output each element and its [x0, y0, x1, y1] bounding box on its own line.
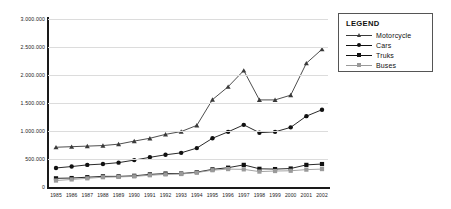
x-axis-tick-label: 1989	[113, 192, 125, 198]
chart-figure: 3.000.0002.500.0002.000.0001.500.0001.00…	[0, 0, 451, 209]
x-axis-tick-label: 1987	[82, 192, 94, 198]
x-axis-tick-label: 1999	[269, 192, 281, 198]
legend-item-cars[interactable]: Cars	[346, 40, 411, 50]
series-buses	[54, 167, 324, 183]
y-axis-tick-label: 3.000.000	[21, 16, 45, 22]
x-axis-tick-label: 1991	[144, 192, 156, 198]
legend-marker-icon	[346, 51, 372, 60]
legend-item-label: Buses	[376, 62, 396, 69]
x-axis-tick-label: 2000	[285, 192, 297, 198]
legend-item-truks[interactable]: Truks	[346, 50, 411, 60]
x-axis-tick-label: 2001	[301, 192, 313, 198]
y-axis-tick-label: 0	[42, 184, 45, 190]
legend-item-label: Truks	[376, 52, 394, 59]
x-axis-tick-label: 1990	[128, 192, 140, 198]
y-axis-labels: 3.000.0002.500.0002.000.0001.500.0001.00…	[0, 0, 45, 209]
gridline	[48, 47, 328, 48]
legend-items: MotorcycleCarsTruksBuses	[346, 30, 411, 70]
gridline	[48, 75, 328, 76]
x-axis-tick-label: 1995	[207, 192, 219, 198]
x-axis-tick-label: 1997	[238, 192, 250, 198]
x-axis-tick-label: 1993	[175, 192, 187, 198]
y-axis-tick-label: 2.000.000	[21, 72, 45, 78]
legend-marker-icon	[346, 41, 372, 50]
legend-marker-icon	[346, 61, 372, 70]
x-axis-tick-label: 2002	[316, 192, 328, 198]
series-cars	[54, 108, 324, 171]
gridline	[48, 159, 328, 160]
legend-title: LEGEND	[346, 19, 411, 28]
plot-area	[48, 19, 328, 187]
x-axis-tick-label: 1988	[97, 192, 109, 198]
x-axis-tick-label: 1994	[191, 192, 203, 198]
y-axis-tick-label: 500.000	[25, 156, 45, 162]
legend-marker-icon	[346, 31, 372, 40]
series-motorcycle	[54, 47, 325, 149]
legend-item-buses[interactable]: Buses	[346, 60, 411, 70]
legend-box: LEGEND MotorcycleCarsTruksBuses	[338, 13, 433, 72]
x-axis-tick-label: 1986	[66, 192, 78, 198]
y-axis-tick-label: 2.500.000	[21, 44, 45, 50]
legend-item-label: Motorcycle	[376, 32, 411, 39]
gridline	[48, 103, 328, 104]
gridline	[48, 131, 328, 132]
x-axis-line	[47, 187, 330, 189]
legend-item-motorcycle[interactable]: Motorcycle	[346, 30, 411, 40]
x-axis-tick-label: 1985	[50, 192, 62, 198]
x-axis-tick-label: 1992	[160, 192, 172, 198]
y-axis-tick-label: 1.500.000	[21, 100, 45, 106]
y-axis-tick-label: 1.000.000	[21, 128, 45, 134]
legend-item-label: Cars	[376, 42, 391, 49]
x-axis-labels: 1985198619871988198919901991199219931994…	[48, 192, 328, 206]
x-axis-tick-label: 1998	[254, 192, 266, 198]
x-axis-tick-label: 1996	[222, 192, 234, 198]
gridline	[48, 19, 328, 20]
